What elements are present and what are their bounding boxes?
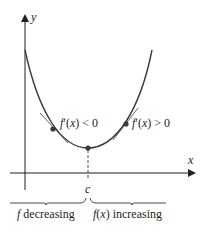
left-interval-brace (10, 198, 86, 205)
left-point (50, 126, 55, 131)
right-interval-brace (90, 198, 166, 205)
minimum-point (85, 145, 90, 150)
right-point (123, 121, 128, 126)
right-derivative-label: f′(x) > 0 (132, 116, 170, 130)
critical-point-label: c (85, 182, 91, 196)
graph-canvas: y x f′(x) < 0 f′(x) > 0 c f decreasing f… (0, 0, 207, 232)
right-interval-label: f(x) increasing (93, 207, 162, 221)
left-derivative-label: f′(x) < 0 (60, 116, 98, 130)
y-axis-label: y (30, 10, 37, 24)
function-curve (25, 50, 152, 148)
x-axis-label: x (187, 153, 194, 167)
left-interval-label: f decreasing (17, 207, 75, 221)
